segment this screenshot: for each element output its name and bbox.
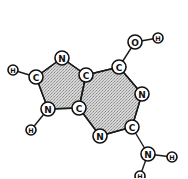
- atom-label: N: [144, 150, 152, 160]
- atom-n3: N: [93, 129, 107, 143]
- atom-c8: C: [29, 70, 43, 84]
- guanine-molecule-diagram: HCNCCNHCOHNCNNHH: [0, 0, 188, 178]
- atom-c2: C: [125, 120, 139, 134]
- atom-label: H: [10, 67, 15, 75]
- atom-label: C: [83, 71, 90, 81]
- atom-label: N: [138, 90, 146, 100]
- atom-label: H: [155, 35, 160, 43]
- atom-h9: H: [26, 125, 36, 135]
- atom-label: C: [33, 73, 40, 83]
- atom-label: C: [116, 63, 123, 73]
- atom-n9: N: [41, 102, 55, 116]
- atom-h2b: H: [135, 171, 145, 178]
- atom-label: H: [28, 127, 33, 135]
- atom-c4: C: [72, 101, 86, 115]
- atom-n7: N: [55, 51, 69, 65]
- atom-label: N: [44, 105, 52, 115]
- atom-h2a: H: [167, 152, 177, 162]
- atom-c6: C: [112, 60, 126, 74]
- atom-label: O: [131, 38, 139, 48]
- atom-c5: C: [79, 68, 93, 82]
- atom-label: N: [58, 54, 66, 64]
- atom-label: N: [96, 132, 104, 142]
- atom-n1: N: [135, 87, 149, 101]
- atom-h8: H: [8, 65, 18, 75]
- atom-n2: N: [141, 147, 155, 161]
- atom-o6: O: [128, 35, 142, 49]
- atom-label: C: [76, 104, 83, 114]
- atom-label: C: [129, 123, 136, 133]
- atom-label: H: [137, 173, 142, 179]
- atom-h6: H: [153, 33, 163, 43]
- atom-label: H: [169, 154, 174, 162]
